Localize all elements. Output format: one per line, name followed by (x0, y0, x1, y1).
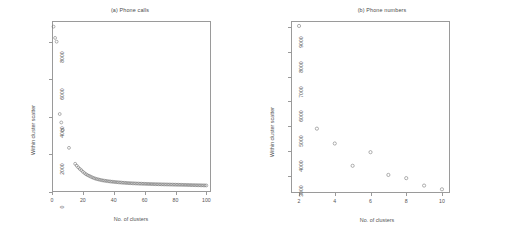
x-tick-label: 100 (194, 197, 218, 203)
y-tick-label: 9000 (298, 27, 304, 57)
x-tick-label: 8 (394, 198, 418, 204)
x-tick-mark (145, 192, 146, 195)
data-point (440, 188, 443, 191)
y-tick-mark (288, 176, 291, 177)
data-point (68, 146, 71, 149)
data-point (54, 36, 57, 39)
data-point (405, 177, 408, 180)
data-point (52, 25, 55, 28)
x-axis-label: No. of clusters (0, 216, 252, 222)
chart-panel-phone-numbers: (b) Phone numbers 2468103000400050006000… (253, 0, 505, 239)
chart-panel-phone-calls: (a) Phone calls 020406080100020004000600… (0, 0, 252, 239)
y-tick-label: 6000 (59, 79, 65, 109)
y-tick-mark (49, 117, 52, 118)
y-tick-mark (288, 27, 291, 28)
y-tick-label: 4000 (59, 117, 65, 147)
x-tick-mark (442, 193, 443, 196)
x-tick-mark (176, 192, 177, 195)
y-tick-mark (49, 79, 52, 80)
data-point (423, 184, 426, 187)
x-tick-label: 40 (102, 197, 126, 203)
x-tick-mark (371, 193, 372, 196)
y-tick-mark (49, 154, 52, 155)
x-tick-label: 6 (359, 198, 383, 204)
y-tick-mark (288, 77, 291, 78)
x-tick-mark (114, 192, 115, 195)
data-point (74, 162, 77, 165)
x-tick-mark (406, 193, 407, 196)
y-tick-mark (49, 42, 52, 43)
y-tick-label: 2000 (59, 154, 65, 184)
x-tick-label: 10 (430, 198, 454, 204)
y-tick-mark (49, 192, 52, 193)
y-axis-label: Within cluster scatter (30, 105, 36, 155)
data-points-layer (0, 0, 252, 239)
data-point (387, 173, 390, 176)
x-tick-label: 60 (133, 197, 157, 203)
data-point (58, 113, 61, 116)
x-tick-label: 4 (323, 198, 347, 204)
data-point (351, 164, 354, 167)
y-tick-mark (288, 151, 291, 152)
x-tick-mark (206, 192, 207, 195)
x-tick-mark (52, 192, 53, 195)
data-point (369, 151, 372, 154)
data-point (55, 40, 58, 43)
y-axis-label: Within cluster scatter (269, 107, 275, 157)
data-point (333, 142, 336, 145)
data-point (315, 127, 318, 130)
x-tick-label: 80 (164, 197, 188, 203)
y-tick-label: 8000 (59, 42, 65, 72)
y-tick-mark (288, 52, 291, 53)
y-tick-mark (288, 101, 291, 102)
y-tick-mark (288, 126, 291, 127)
x-tick-mark (83, 192, 84, 195)
figure-container: (a) Phone calls 020406080100020004000600… (0, 0, 505, 239)
x-tick-label: 20 (71, 197, 95, 203)
x-axis-label: No. of clusters (253, 217, 505, 223)
x-tick-mark (335, 193, 336, 196)
